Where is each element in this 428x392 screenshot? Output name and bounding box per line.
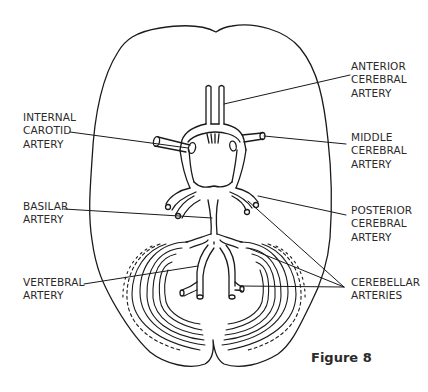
label-line: ARTERY bbox=[23, 213, 68, 226]
label-line: ARTERIES bbox=[351, 289, 420, 302]
label-line: ARTERY bbox=[23, 138, 76, 151]
label-line: POSTERIOR bbox=[351, 204, 412, 217]
vertebral-arteries bbox=[180, 245, 244, 299]
cerebellum-left bbox=[123, 242, 205, 350]
label-line: BASILAR bbox=[23, 200, 68, 213]
label-vertebral-artery: VERTEBRAL ARTERY bbox=[23, 276, 84, 303]
diagram-artwork bbox=[0, 0, 428, 392]
label-basilar-artery: BASILAR ARTERY bbox=[23, 200, 68, 227]
label-line: ANTERIOR bbox=[351, 60, 407, 73]
label-line: ARTERY bbox=[351, 231, 412, 244]
label-anterior-cerebral-artery: ANTERIOR CEREBRAL ARTERY bbox=[351, 60, 407, 100]
label-middle-cerebral-artery: MIDDLE CEREBRAL ARTERY bbox=[351, 131, 407, 171]
leader-middle-cerebral bbox=[264, 136, 346, 144]
label-cerebellar-arteries: CEREBELLAR ARTERIES bbox=[351, 276, 420, 303]
leader-anterior-cerebral bbox=[224, 75, 350, 104]
brain-outline bbox=[90, 25, 332, 366]
figure-caption: Figure 8 bbox=[311, 350, 372, 365]
leader-lines bbox=[64, 75, 350, 287]
label-line: ARTERY bbox=[351, 87, 407, 100]
label-line: INTERNAL bbox=[23, 111, 76, 124]
label-line: ARTERY bbox=[351, 158, 407, 171]
label-line: VERTEBRAL bbox=[23, 276, 84, 289]
middle-cerebral-artery bbox=[242, 133, 265, 143]
leader-basilar bbox=[64, 209, 212, 218]
brain-artery-diagram: ANTERIOR CEREBRAL ARTERY INTERNAL CAROTI… bbox=[0, 0, 428, 392]
label-internal-carotid-artery: INTERNAL CAROTID ARTERY bbox=[23, 111, 76, 151]
anterior-cerebral-arteries bbox=[206, 86, 224, 125]
label-line: MIDDLE bbox=[351, 131, 407, 144]
label-line: CAROTID bbox=[23, 124, 76, 137]
circle-of-willis bbox=[180, 124, 246, 188]
label-line: CEREBELLAR bbox=[351, 276, 420, 289]
label-line: CEREBRAL bbox=[351, 217, 412, 230]
leader-posterior-cerebral bbox=[258, 196, 346, 215]
label-line: CEREBRAL bbox=[351, 73, 407, 86]
label-line: ARTERY bbox=[23, 289, 84, 302]
label-posterior-cerebral-artery: POSTERIOR CEREBRAL ARTERY bbox=[351, 204, 412, 244]
leader-cerebellar-3 bbox=[240, 286, 344, 287]
label-line: CEREBRAL bbox=[351, 144, 407, 157]
